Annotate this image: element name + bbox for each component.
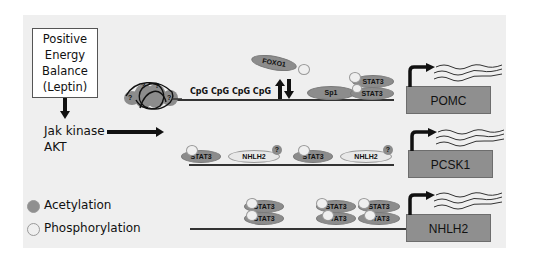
sp1-protein: Sp1: [307, 86, 355, 100]
cpg-islands-label: CpG CpG CpG CpG: [190, 87, 271, 96]
right-arrow-icon: [107, 127, 165, 137]
pcsk1-dna-strand: [189, 164, 394, 166]
unknown-modification-mark: ?: [272, 145, 282, 155]
stat3-phosphorylation-mark: [298, 145, 310, 156]
stat3-phosphorylation-mark: [358, 198, 370, 209]
stat3-phosphorylation-mark: [316, 198, 328, 209]
unknown-modification-mark: ?: [383, 145, 393, 155]
acetylation-legend-label: Acetylation: [44, 198, 111, 212]
foxo1-phosphorylation-mark: [298, 64, 310, 75]
stat3-phosphorylation-mark: [186, 145, 198, 156]
svg-text:?: ?: [155, 82, 159, 89]
pcsk1-transcription-icon: [408, 128, 506, 152]
akt-label: AKT: [44, 140, 66, 154]
pcsk1-gene-box: PCSK1: [408, 150, 493, 178]
svg-text:?: ?: [128, 94, 132, 101]
phosphorylation-legend-label: Phosphorylation: [44, 221, 141, 235]
nhlh2-gene-box: NHLH2: [406, 214, 491, 242]
svg-text:?: ?: [141, 82, 145, 89]
stat3-phosphorylation-mark: [246, 198, 258, 209]
stat3-phosphorylation-mark: [364, 210, 376, 221]
jak-kinase-label: Jak kinase: [44, 124, 105, 138]
stat3-phosphorylation-mark: [322, 210, 334, 221]
up-down-arrows-icon: [275, 78, 295, 100]
signal-line-1: Positive: [33, 31, 97, 47]
stat3-phosphorylation-mark: [352, 84, 362, 93]
nucleosome-icon: ? ? ? ?: [122, 78, 182, 114]
svg-text:?: ?: [167, 94, 171, 101]
positive-energy-balance-box: Positive Energy Balance (Leptin): [32, 28, 98, 98]
down-arrow-icon: [60, 98, 70, 120]
nhlh2-dna-strand: [190, 228, 408, 230]
pomc-gene-box: POMC: [406, 86, 491, 114]
pomc-transcription-icon: [406, 63, 506, 88]
signal-line-4: (Leptin): [33, 79, 97, 95]
signal-line-2: Energy: [33, 47, 97, 63]
stat3-phosphorylation-mark: [246, 210, 258, 221]
acetylation-legend-icon: [27, 200, 40, 213]
phosphorylation-legend-icon: [27, 223, 40, 236]
stat3-phosphorylation-mark: [349, 72, 361, 83]
nhlh2-transcription-icon: [406, 191, 506, 216]
signal-line-3: Balance: [33, 63, 97, 79]
